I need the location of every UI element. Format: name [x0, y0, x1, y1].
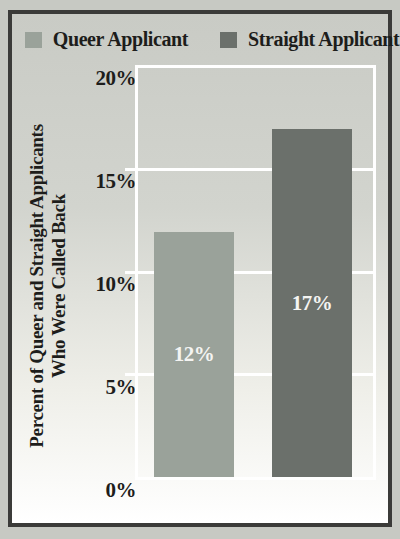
y-tick-label-5: 5%: [46, 374, 136, 400]
y-tick-label-0: 0%: [46, 477, 136, 503]
plot-area: 12% 17%: [135, 65, 376, 480]
bar-queer-applicant: 12%: [154, 232, 234, 477]
y-tick-label-10: 10%: [46, 271, 136, 297]
bar-straight-applicant: 17%: [272, 129, 352, 477]
bar-value-label-queer: 12%: [154, 342, 234, 367]
y-tick-label-15: 15%: [46, 168, 136, 194]
figure: Queer Applicant Straight Applicant Perce…: [0, 0, 400, 539]
legend: Queer Applicant Straight Applicant: [22, 28, 384, 51]
y-axis-title-line1: Percent of Queer and Straight Applicants: [26, 124, 48, 448]
y-tickmark-10: [125, 271, 136, 274]
y-tick-label-20: 20%: [46, 65, 136, 91]
legend-item-queer: Queer Applicant: [25, 28, 188, 51]
legend-label-straight: Straight Applicant: [248, 28, 399, 51]
y-tickmark-5: [125, 373, 136, 376]
legend-label-queer: Queer Applicant: [53, 28, 188, 51]
legend-item-straight: Straight Applicant: [220, 28, 399, 51]
legend-swatch-straight: [220, 32, 237, 48]
y-tickmark-15: [125, 168, 136, 171]
bar-value-label-straight: 17%: [272, 291, 352, 316]
chart-frame: Queer Applicant Straight Applicant Perce…: [8, 10, 392, 527]
legend-swatch-queer: [25, 32, 42, 48]
